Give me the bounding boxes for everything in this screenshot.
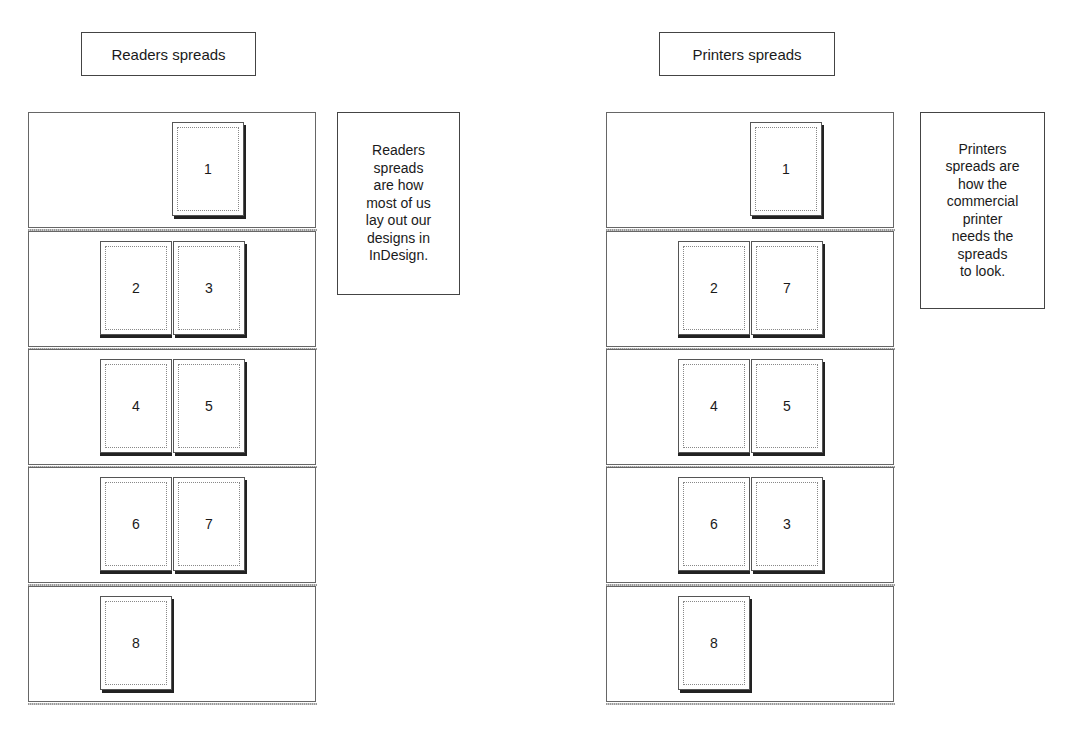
- note-line: designs in: [366, 230, 431, 248]
- note-line: to look.: [946, 263, 1020, 281]
- note-line: most of us: [366, 195, 431, 213]
- printers-row-3: 4 5: [606, 349, 894, 465]
- page-number: 6: [132, 516, 140, 532]
- readers-note: Readers spreads are how most of us lay o…: [337, 112, 460, 295]
- page-thumbnail: 8: [678, 596, 750, 690]
- page-number: 3: [205, 280, 213, 296]
- printers-row-1: 1: [606, 112, 894, 228]
- printers-note-text: Printers spreads are how the commercial …: [946, 141, 1020, 281]
- page-thumbnail: 7: [173, 477, 245, 571]
- page-number: 5: [783, 398, 791, 414]
- readers-title: Readers spreads: [81, 32, 256, 76]
- printers-note: Printers spreads are how the commercial …: [920, 112, 1045, 309]
- page-thumbnail: 2: [100, 241, 172, 335]
- page-thumbnail: 4: [100, 359, 172, 453]
- page-number: 4: [710, 398, 718, 414]
- note-line: InDesign.: [366, 247, 431, 265]
- printers-row-4: 6 3: [606, 467, 894, 583]
- note-line: spreads: [946, 246, 1020, 264]
- page-thumbnail: 4: [678, 359, 750, 453]
- page-number: 1: [204, 161, 212, 177]
- page-thumbnail: 3: [173, 241, 245, 335]
- page-number: 2: [710, 280, 718, 296]
- printers-title: Printers spreads: [659, 32, 835, 76]
- page-number: 7: [205, 516, 213, 532]
- page-number: 8: [710, 635, 718, 651]
- page-number: 3: [783, 516, 791, 532]
- note-line: spreads: [366, 160, 431, 178]
- page-thumbnail: 1: [750, 122, 822, 216]
- note-line: commercial: [946, 193, 1020, 211]
- readers-row-1: 1: [28, 112, 316, 228]
- readers-row-5: 8: [28, 586, 316, 702]
- printers-row-5: 8: [606, 586, 894, 702]
- page-number: 2: [132, 280, 140, 296]
- page-thumbnail: 5: [751, 359, 823, 453]
- page-thumbnail: 5: [173, 359, 245, 453]
- readers-title-text: Readers spreads: [111, 46, 225, 63]
- note-line: lay out our: [366, 212, 431, 230]
- page-thumbnail: 8: [100, 596, 172, 690]
- page-number: 5: [205, 398, 213, 414]
- page-thumbnail: 7: [751, 241, 823, 335]
- page-thumbnail: 1: [172, 122, 244, 216]
- page-number: 7: [783, 280, 791, 296]
- note-line: how the: [946, 176, 1020, 194]
- page-number: 8: [132, 635, 140, 651]
- printers-title-text: Printers spreads: [692, 46, 801, 63]
- readers-row-2: 2 3: [28, 231, 316, 347]
- page-thumbnail: 3: [751, 477, 823, 571]
- page-number: 1: [782, 161, 790, 177]
- readers-row-4: 6 7: [28, 467, 316, 583]
- page-thumbnail: 6: [678, 477, 750, 571]
- note-line: spreads are: [946, 158, 1020, 176]
- note-line: needs the: [946, 228, 1020, 246]
- note-line: Printers: [946, 141, 1020, 159]
- page-number: 4: [132, 398, 140, 414]
- readers-note-text: Readers spreads are how most of us lay o…: [366, 142, 431, 265]
- page-number: 6: [710, 516, 718, 532]
- page-thumbnail: 2: [678, 241, 750, 335]
- readers-row-3: 4 5: [28, 349, 316, 465]
- printers-row-2: 2 7: [606, 231, 894, 347]
- note-line: are how: [366, 177, 431, 195]
- note-line: Readers: [366, 142, 431, 160]
- page-thumbnail: 6: [100, 477, 172, 571]
- note-line: printer: [946, 211, 1020, 229]
